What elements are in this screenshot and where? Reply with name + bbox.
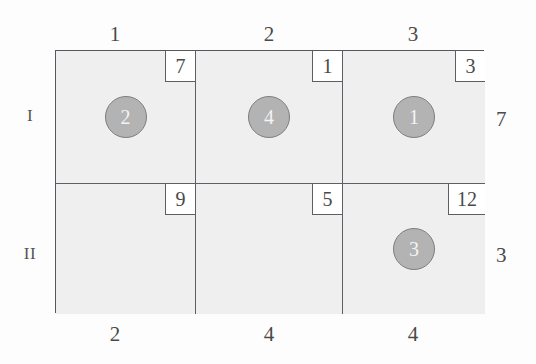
transportation-tableau: 1 2 3 I II 7 3 2 4 4 7 2 1 4 3 1 9 5 1 bbox=[0, 0, 536, 364]
column-header-2: 2 bbox=[239, 22, 299, 46]
cell-I-1[interactable]: 7 2 bbox=[56, 51, 196, 184]
row-header-I: I bbox=[14, 106, 46, 126]
cell-II-1[interactable]: 9 bbox=[56, 184, 196, 314]
row-header-II: II bbox=[14, 244, 46, 264]
demand-value-col-2: 4 bbox=[239, 322, 299, 346]
cell-I-3[interactable]: 3 1 bbox=[343, 51, 485, 184]
supply-value-row-I: 7 bbox=[496, 107, 526, 132]
demand-value-col-3: 4 bbox=[383, 322, 443, 346]
allocation-circle-II-3: 3 bbox=[393, 228, 435, 270]
demand-value-col-1: 2 bbox=[85, 322, 145, 346]
cell-II-3[interactable]: 12 3 bbox=[343, 184, 485, 314]
cell-II-2[interactable]: 5 bbox=[196, 184, 343, 314]
supply-value-row-II: 3 bbox=[496, 243, 526, 268]
column-header-1: 1 bbox=[85, 22, 145, 46]
allocation-circle-I-1: 2 bbox=[105, 96, 147, 138]
tableau-grid: 7 2 1 4 3 1 9 5 12 3 bbox=[55, 50, 484, 313]
cell-I-2[interactable]: 1 4 bbox=[196, 51, 343, 184]
cost-box-II-1: 9 bbox=[165, 184, 195, 215]
cost-box-II-2: 5 bbox=[312, 184, 342, 215]
column-header-3: 3 bbox=[383, 22, 443, 46]
allocation-circle-I-3: 1 bbox=[393, 96, 435, 138]
allocation-circle-I-2: 4 bbox=[248, 96, 290, 138]
cost-box-II-3: 12 bbox=[448, 184, 485, 215]
cost-box-I-3: 3 bbox=[455, 51, 485, 82]
cost-box-I-2: 1 bbox=[312, 51, 342, 82]
cost-box-I-1: 7 bbox=[165, 51, 195, 82]
